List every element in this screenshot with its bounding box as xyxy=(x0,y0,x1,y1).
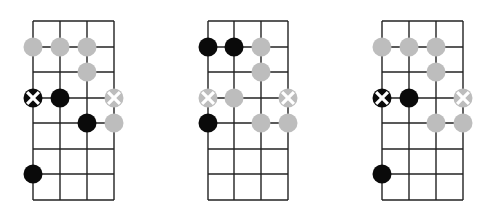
black-note-marker xyxy=(78,114,97,133)
gray-note-marker xyxy=(51,38,70,57)
fretboard-diagrams xyxy=(0,0,492,209)
black-note-marker xyxy=(24,165,43,184)
root-note-gray-marker xyxy=(199,89,218,108)
gray-note-marker xyxy=(252,63,271,82)
gray-note-marker xyxy=(252,114,271,133)
gray-note-marker xyxy=(279,114,298,133)
gray-note-marker xyxy=(105,114,124,133)
fret-grid xyxy=(33,21,114,200)
gray-note-marker xyxy=(454,114,473,133)
fret-grid xyxy=(382,21,463,200)
diagram-1 xyxy=(24,21,124,200)
black-note-marker xyxy=(199,38,218,57)
root-note-black-marker xyxy=(24,89,43,108)
black-note-marker xyxy=(400,89,419,108)
gray-note-marker xyxy=(427,63,446,82)
gray-note-marker xyxy=(225,89,244,108)
black-note-marker xyxy=(225,38,244,57)
gray-note-marker xyxy=(252,38,271,57)
gray-note-marker xyxy=(24,38,43,57)
gray-note-marker xyxy=(78,38,97,57)
gray-note-marker xyxy=(427,38,446,57)
gray-note-marker xyxy=(400,38,419,57)
black-note-marker xyxy=(199,114,218,133)
root-note-black-marker xyxy=(373,89,392,108)
root-note-gray-marker xyxy=(454,89,473,108)
fret-grid xyxy=(208,21,288,200)
gray-note-marker xyxy=(78,63,97,82)
root-note-gray-marker xyxy=(279,89,298,108)
black-note-marker xyxy=(51,89,70,108)
black-note-marker xyxy=(373,165,392,184)
diagram-2 xyxy=(199,21,298,200)
gray-note-marker xyxy=(427,114,446,133)
diagram-3 xyxy=(373,21,473,200)
gray-note-marker xyxy=(373,38,392,57)
root-note-gray-marker xyxy=(105,89,124,108)
